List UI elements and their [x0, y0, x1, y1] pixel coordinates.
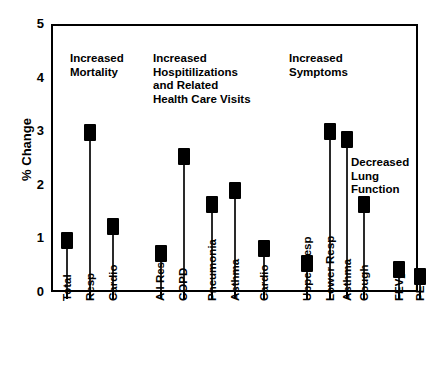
x-axis-tick-labels: Total Resp Cardio All Resp COPD Pneumoni… — [0, 0, 431, 384]
x-label-pneumonia: Pneumonia — [207, 239, 218, 301]
x-label-fev1-text: FEV — [393, 279, 405, 301]
x-label-asthma-1: Asthma — [230, 259, 241, 301]
x-label-cardio-2: Cardio — [259, 265, 270, 301]
x-label-fev1: FEV1 — [394, 274, 406, 301]
x-label-copd: COPD — [178, 268, 189, 301]
x-label-cough: Cough — [359, 265, 370, 301]
x-label-all-resp: All Resp — [155, 255, 166, 301]
x-label-asthma-2: Asthma — [342, 259, 353, 301]
x-label-total: Total — [62, 274, 73, 301]
x-label-pev: PEV — [415, 278, 426, 301]
x-label-cardio: Cardio — [108, 265, 119, 301]
x-label-resp: Resp — [85, 273, 96, 301]
chart-figure: % Change 0 1 2 3 4 5 IncreasedMortality … — [0, 0, 431, 384]
x-label-upper-resp: Upper Resp — [302, 236, 313, 301]
x-label-lower-resp: Lower Resp — [325, 236, 336, 301]
x-label-fev1-sub: 1 — [397, 274, 407, 279]
